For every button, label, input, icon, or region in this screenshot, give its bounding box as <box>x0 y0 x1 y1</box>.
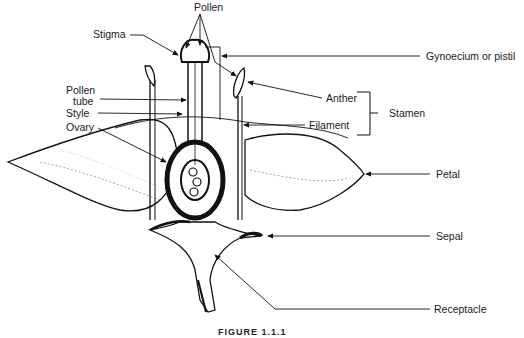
label-filament: Filament <box>309 120 349 131</box>
label-ovary: Ovary <box>66 122 94 133</box>
label-anther: Anther <box>326 93 357 104</box>
label-gynoecium: Gynoecium or pistil <box>426 51 515 62</box>
label-sepal: Sepal <box>436 231 463 242</box>
label-pollen-tube-line2: tube <box>73 96 93 107</box>
label-receptacle: Receptacle <box>434 304 487 315</box>
figure-caption: FIGURE 1.1.1 <box>218 327 287 337</box>
label-stamen: Stamen <box>389 108 425 119</box>
label-style: Style <box>66 108 89 119</box>
label-petal: Petal <box>436 169 460 180</box>
label-stigma: Stigma <box>93 29 126 40</box>
label-pollen: Pollen <box>194 2 223 13</box>
